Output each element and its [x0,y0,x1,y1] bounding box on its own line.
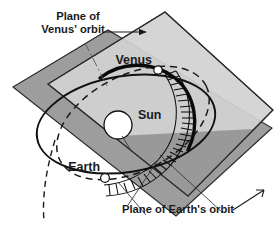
earth-label: Earth [68,160,100,174]
orbital-planes-diagram: Plane of Venus' orbit Plane of Earth's o… [0,0,275,231]
earth-plane-label: Plane of Earth's orbit [122,203,234,215]
venus-plane-label-line1: Plane of [56,10,100,22]
venus-label: Venus [116,53,153,67]
venus-orbit-tail-arc [43,140,55,222]
earth-plane-leader-arrow [233,190,264,210]
earth-body [101,174,110,183]
earth-marker [101,174,110,183]
sun-disc [104,111,132,139]
venus-plane-label-line2: Venus' orbit [41,23,105,35]
diagram-canvas: Plane of Venus' orbit Plane of Earth's o… [0,0,275,231]
venus-body [154,66,162,74]
sun-label: Sun [138,108,161,122]
venus-marker [154,66,162,74]
